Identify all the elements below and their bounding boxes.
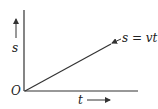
y-axis-label: s — [12, 41, 18, 55]
label-pointer-arrow-icon — [112, 39, 121, 43]
x-axis-label: t — [78, 93, 83, 107]
line-label: s = vt — [122, 31, 158, 45]
origin-label: O — [11, 84, 21, 98]
displacement-time-diagram: s = vt s O t — [0, 0, 158, 109]
s-vt-line — [25, 44, 111, 91]
